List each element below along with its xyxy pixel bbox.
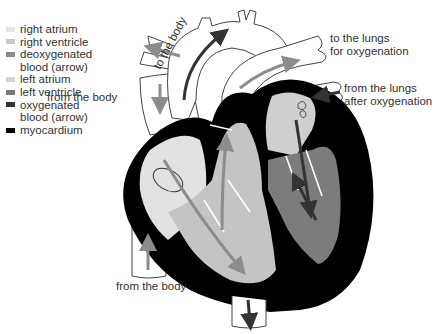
label-line: to the lungs	[330, 32, 409, 45]
label-line: after oxygenation	[344, 95, 432, 108]
label-from-the-body-top: from the body	[47, 91, 117, 104]
label-line: from the lungs	[344, 82, 432, 95]
label-from-the-lungs: from the lungs after oxygenation	[344, 82, 432, 108]
label-from-the-body-bottom: from the body	[116, 280, 186, 293]
label-to-the-lungs: to the lungs for oxygenation	[330, 32, 409, 58]
descending-aorta-arrow	[248, 300, 250, 322]
label-line: for oxygenation	[330, 45, 409, 58]
